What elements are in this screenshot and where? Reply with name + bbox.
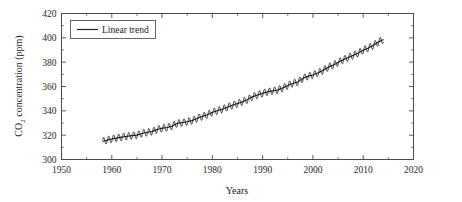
- x-tick-label: 1990: [253, 165, 272, 175]
- x-tick-label: 2000: [303, 165, 322, 175]
- x-tick-label: 2020: [404, 165, 423, 175]
- y-tick-label: 320: [42, 131, 57, 141]
- y-tick-label: 400: [42, 33, 57, 43]
- x-tick-label: 1970: [153, 165, 172, 175]
- x-axis-title: Years: [226, 185, 248, 196]
- y-tick-label: 340: [42, 106, 57, 116]
- co2-concentration-line-chart: 300320340360380400420 195019601970198019…: [0, 0, 462, 202]
- chart-figure: 300320340360380400420 195019601970198019…: [0, 0, 462, 202]
- x-tick-label: 1960: [102, 165, 121, 175]
- chart-legend: Linear trend: [71, 21, 156, 39]
- x-tick-label: 1950: [52, 165, 71, 175]
- y-tick-label: 300: [42, 155, 57, 165]
- y-tick-label: 380: [42, 58, 57, 68]
- x-tick-label: 2010: [354, 165, 373, 175]
- y-tick-label: 420: [42, 9, 57, 19]
- legend-label-linear-trend: Linear trend: [102, 25, 149, 35]
- x-tick-label: 1980: [203, 165, 222, 175]
- y-tick-label: 360: [42, 82, 57, 92]
